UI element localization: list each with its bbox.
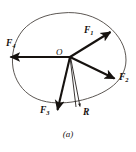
vector-label-f3-sub: 3 xyxy=(46,109,49,116)
force-diagram-figure: O F1 F2 F3 F4 R (a) xyxy=(0,0,136,152)
origin-label: O xyxy=(56,48,63,57)
vector-label-f1-sub: 1 xyxy=(90,29,93,36)
vector-label-f2: F2 xyxy=(119,73,129,83)
figure-caption: (a) xyxy=(0,130,136,139)
vector-label-r: R xyxy=(83,108,89,118)
origin-point xyxy=(69,56,71,58)
vector-label-r-base: R xyxy=(83,107,89,117)
vector-label-f4: F4 xyxy=(6,39,16,49)
vector-label-f2-sub: 2 xyxy=(125,76,128,83)
vector-label-f1: F1 xyxy=(84,26,94,36)
vector-label-f4-sub: 4 xyxy=(12,42,15,49)
vector-f2 xyxy=(70,57,115,79)
vector-label-f3: F3 xyxy=(40,106,50,116)
